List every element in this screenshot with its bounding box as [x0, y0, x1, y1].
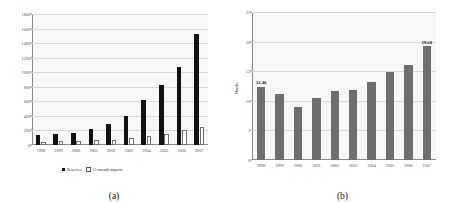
legend-label: 12-month imports: [93, 167, 123, 172]
y-axis-tick-label: 1200: [22, 55, 30, 60]
panel-a: 020040060080010001200140016001800 199819…: [0, 0, 228, 203]
x-axis-tick-label: 1998: [257, 163, 265, 168]
chart-b-y-axis-label: Months: [234, 82, 239, 94]
y-axis-tick-label: 1800: [22, 12, 30, 17]
x-axis-tick-label: 2007: [423, 163, 431, 168]
x-axis-tick-label: 2000: [72, 148, 80, 153]
chart-b-x-axis: 1998199920002001200220032004200520062007: [252, 12, 436, 160]
chart-b-import-cover: 0510152025 12.4019.20 199819992000200120…: [252, 12, 436, 160]
panel-a-caption: (a): [0, 191, 228, 201]
x-axis-tick-label: 1998: [37, 148, 45, 153]
x-axis-tick-label: 2007: [195, 148, 203, 153]
chart-a-x-axis: 1998199920002001200220032004200520062007: [32, 14, 208, 145]
x-axis-tick-label: 2002: [331, 163, 339, 168]
x-axis-tick-label: 2004: [367, 163, 375, 168]
x-axis-tick-label: 2001: [312, 163, 320, 168]
legend-label: Reserves: [67, 167, 82, 172]
x-axis-tick-label: 2002: [107, 148, 115, 153]
x-axis-tick-label: 2004: [142, 148, 150, 153]
legend-item: Reserves: [62, 167, 82, 172]
y-axis-tick-label: 1600: [22, 26, 30, 31]
legend-swatch-icon: [62, 168, 65, 171]
x-axis-tick-label: 2005: [160, 148, 168, 153]
x-axis-tick-label: 2003: [125, 148, 133, 153]
panel-b-caption: (b): [228, 191, 457, 201]
panel-b: 0510152025 12.4019.20 199819992000200120…: [228, 0, 457, 203]
x-axis-tick-label: 1999: [275, 163, 283, 168]
x-axis-tick-label: 2005: [386, 163, 394, 168]
legend-swatch-icon: [86, 167, 91, 172]
chart-a-legend: Reserves12-month imports: [62, 167, 123, 172]
x-axis-tick-label: 2001: [89, 148, 97, 153]
x-axis-tick-label: 2006: [404, 163, 412, 168]
x-axis-tick-label: 2003: [349, 163, 357, 168]
x-axis-tick-label: 2000: [294, 163, 302, 168]
figure-container: 020040060080010001200140016001800 199819…: [0, 0, 457, 203]
x-axis-tick-label: 1999: [54, 148, 62, 153]
chart-a-reserves: 020040060080010001200140016001800 199819…: [32, 14, 208, 145]
x-axis-tick-label: 2006: [177, 148, 185, 153]
legend-item: 12-month imports: [86, 167, 123, 172]
y-axis-tick-label: 1000: [22, 70, 30, 75]
y-axis-tick-label: 1400: [22, 41, 30, 46]
